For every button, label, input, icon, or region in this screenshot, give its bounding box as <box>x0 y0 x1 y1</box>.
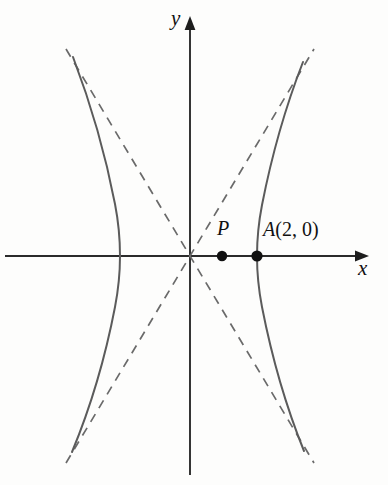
hyperbola-figure: y x P A(2, 0) <box>0 0 388 485</box>
point-p-label: P <box>217 218 229 238</box>
y-axis-label: y <box>171 8 180 29</box>
point-a-name: A <box>263 218 275 240</box>
hyperbola-left-branch <box>72 57 120 452</box>
point-p-marker <box>217 251 227 261</box>
y-axis-arrowhead <box>185 16 196 30</box>
x-axis-label: x <box>358 258 367 279</box>
point-a-label: A(2, 0) <box>263 219 319 239</box>
point-a-marker <box>251 250 262 261</box>
hyperbola-plot-canvas <box>0 0 388 485</box>
point-a-coords: (2, 0) <box>275 218 318 240</box>
